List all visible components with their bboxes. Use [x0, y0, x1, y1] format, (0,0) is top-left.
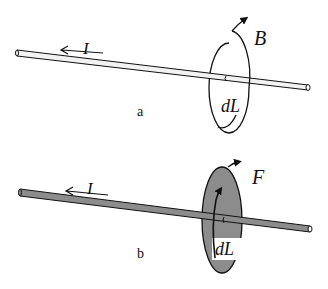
current-label-b: I: [87, 180, 93, 197]
current-arrow-icon: [61, 46, 103, 54]
field-label-a: B: [254, 28, 266, 48]
element-label-b: dL: [215, 240, 234, 258]
field-loop-back: [209, 43, 229, 133]
diagram-canvas: [0, 0, 328, 289]
caption-a: a: [137, 105, 143, 119]
wire-rod-a: [16, 50, 311, 91]
force-label-b: F: [252, 167, 264, 187]
arrow-icon: [228, 162, 238, 167]
element-label-a: dL: [221, 97, 240, 115]
caption-b: b: [137, 247, 144, 261]
current-label-a: I: [83, 40, 89, 57]
wire-rod-b: [19, 189, 313, 232]
panel-b: [19, 162, 313, 273]
arrow-icon: [232, 19, 245, 31]
